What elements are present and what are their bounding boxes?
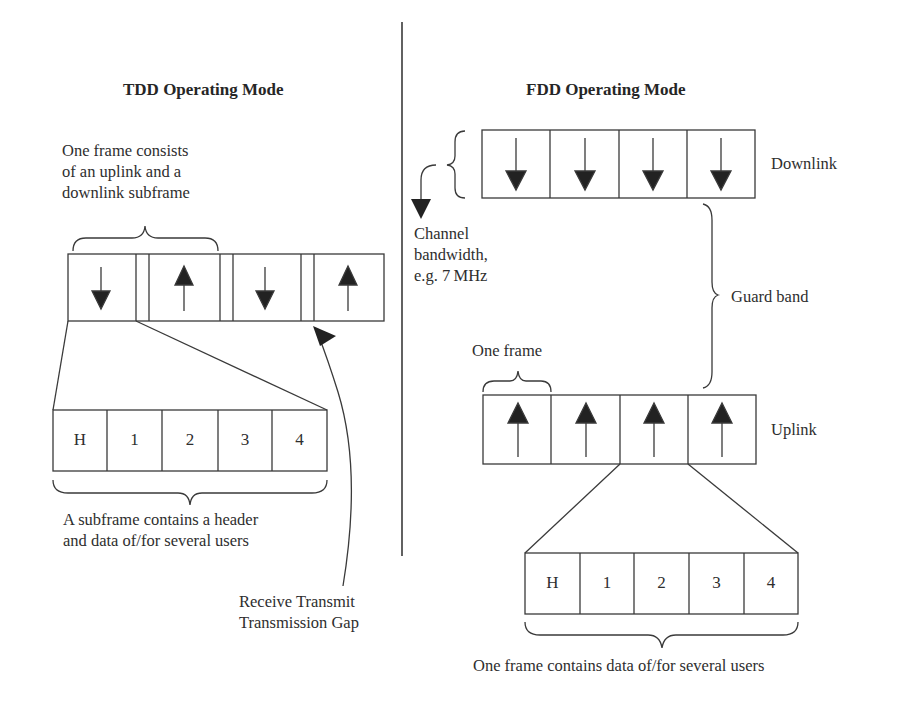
tdd-subframe-note-line: and data of/for several users	[63, 530, 258, 551]
fdd-cell-4: 4	[744, 573, 798, 593]
fdd-cell-3: 3	[689, 573, 744, 593]
fdd-cell-2: 2	[634, 573, 689, 593]
fdd-one-frame-label: One frame	[472, 340, 542, 361]
tdd-cell-3: 3	[218, 430, 272, 450]
tdd-title: TDD Operating Mode	[123, 80, 284, 100]
tdd-cell-h: H	[53, 430, 107, 450]
tdd-frame-note-line: downlink subframe	[62, 182, 190, 203]
tdd-frame-note: One frame consists of an uplink and a do…	[62, 140, 190, 203]
fdd-frame-note: One frame contains data of/for several u…	[473, 655, 764, 676]
tdd-gap-note-line: Receive Transmit	[239, 591, 359, 612]
tdd-gap-note-line: Transmission Gap	[239, 612, 359, 633]
fdd-uplink-label: Uplink	[771, 419, 817, 440]
fdd-section	[421, 130, 798, 648]
fdd-frame-brace	[525, 622, 798, 648]
fdd-guard-band-brace	[703, 204, 718, 388]
tdd-subframe-note: A subframe contains a header and data of…	[63, 509, 258, 551]
tdd-direction-arrows	[92, 266, 357, 311]
tdd-zoom-line-left	[53, 321, 68, 410]
tdd-gap-arrow	[318, 334, 351, 586]
tdd-zoom-line-right	[136, 321, 327, 410]
fdd-channel-arrow	[421, 165, 436, 202]
tdd-cell-2: 2	[162, 430, 218, 450]
fdd-channel-note-line: e.g. 7 MHz	[414, 265, 488, 286]
tdd-subframe-brace	[53, 480, 327, 505]
fdd-channel-note: Channel bandwidth, e.g. 7 MHz	[414, 223, 488, 286]
tdd-subframe-note-line: A subframe contains a header	[63, 509, 258, 530]
fdd-guard-band-label: Guard band	[731, 286, 808, 307]
tdd-gap-note: Receive Transmit Transmission Gap	[239, 591, 359, 633]
fdd-channel-brace	[447, 131, 465, 198]
fdd-zoom-line-right	[688, 464, 798, 553]
fdd-channel-note-line: Channel	[414, 223, 488, 244]
tdd-frame-note-line: of an uplink and a	[62, 161, 190, 182]
tdd-frame-note-line: One frame consists	[62, 140, 190, 161]
fdd-channel-arrowhead-icon	[411, 199, 431, 219]
fdd-title: FDD Operating Mode	[526, 80, 686, 100]
fdd-downlink-label: Downlink	[771, 153, 837, 174]
fdd-cell-h: H	[525, 573, 580, 593]
fdd-cell-1: 1	[580, 573, 634, 593]
tdd-cell-1: 1	[107, 430, 162, 450]
fdd-one-frame-brace	[483, 371, 551, 392]
fdd-zoom-line-left	[525, 464, 620, 553]
tdd-gap-arrowhead-icon	[313, 326, 336, 346]
diagram-canvas	[0, 0, 901, 712]
fdd-channel-note-line: bandwidth,	[414, 244, 488, 265]
tdd-cell-4: 4	[272, 430, 327, 450]
tdd-subframe-row	[68, 254, 384, 321]
tdd-frame-brace	[73, 226, 218, 251]
